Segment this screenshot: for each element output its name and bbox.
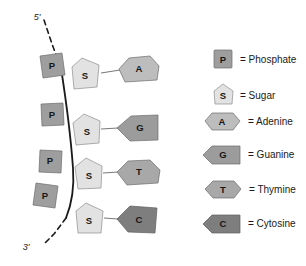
phosphate-letter: P — [49, 109, 56, 120]
base-group-adenine: A — [119, 56, 159, 82]
five-prime-label: 5' — [34, 12, 41, 22]
sugar-group-3: S — [75, 158, 102, 189]
legend-symbol-adenine: A — [219, 116, 226, 127]
sugar-base-connector — [101, 128, 118, 129]
nucleotide-guanine: P S G — [41, 103, 158, 145]
phosphate-group-4: P — [33, 183, 58, 208]
legend-item-phosphate: P = Phosphate — [214, 50, 297, 68]
legend-item-adenine: A = Adenine — [205, 113, 293, 130]
legend: P = Phosphate S = Sugar A = Adenine G = … — [203, 50, 297, 233]
legend-item-thymine: T = Thymine — [205, 181, 296, 198]
legend-symbol-guanine: G — [219, 149, 226, 160]
sugar-base-connector — [104, 218, 118, 219]
base-group-thymine: T — [117, 160, 160, 185]
sugar-letter: S — [86, 215, 92, 226]
phosphate-letter: P — [49, 60, 56, 71]
legend-label-thymine: = Thymine — [249, 184, 296, 195]
nucleotide-adenine: P S A — [40, 53, 159, 89]
phosphate-group-2: P — [41, 103, 64, 126]
base-letter-cytosine: C — [136, 214, 143, 225]
sugar-letter: S — [84, 126, 90, 137]
sugar-letter: S — [82, 70, 88, 81]
phosphate-group-3: P — [39, 150, 62, 173]
legend-label-cytosine: = Cytosine — [248, 218, 296, 229]
nucleotide-thymine: P S T — [39, 150, 160, 189]
legend-label-sugar: = Sugar — [240, 90, 276, 101]
phosphate-group-1: P — [40, 53, 65, 78]
backbone-solid — [61, 68, 73, 218]
nucleotide-cytosine: P S C — [33, 183, 157, 233]
three-prime-label: 3' — [23, 242, 30, 252]
sugar-group-2: S — [73, 114, 100, 145]
diagram-canvas: 5' 3' P S A — [0, 0, 306, 266]
legend-item-cytosine: C = Cytosine — [203, 215, 296, 233]
legend-symbol-thymine: T — [220, 184, 226, 195]
sugar-base-connector — [103, 172, 118, 173]
legend-label-guanine: = Guanine — [248, 149, 295, 160]
backbone-dashed-bottom — [43, 218, 66, 245]
phosphate-letter: P — [42, 190, 49, 201]
legend-label-adenine: = Adenine — [248, 116, 293, 127]
dna-strand-diagram: 5' 3' P S A — [0, 0, 306, 266]
legend-item-sugar: S = Sugar — [214, 84, 276, 104]
sugar-base-connector — [101, 70, 120, 73]
sugar-letter: S — [86, 170, 92, 181]
legend-symbol-phosphate: P — [220, 54, 227, 65]
sugar-group-4: S — [76, 203, 103, 233]
base-letter-thymine: T — [136, 166, 142, 177]
legend-label-phosphate: = Phosphate — [240, 54, 297, 65]
legend-symbol-sugar: S — [220, 90, 226, 101]
base-group-guanine: G — [117, 115, 158, 141]
base-letter-guanine: G — [136, 122, 143, 133]
legend-symbol-cytosine: C — [220, 218, 227, 229]
base-letter-adenine: A — [136, 63, 143, 74]
base-group-cytosine: C — [117, 206, 157, 233]
phosphate-letter: P — [47, 155, 54, 166]
sugar-group-1: S — [72, 58, 99, 89]
legend-item-guanine: G = Guanine — [203, 146, 295, 164]
